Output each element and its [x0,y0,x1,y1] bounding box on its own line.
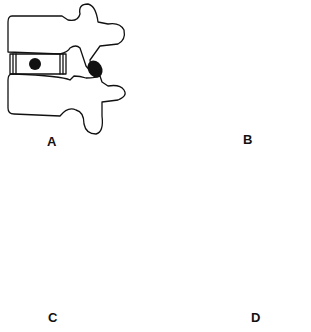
panel-label-c: C [48,310,57,325]
diagram-canvas [0,0,311,332]
panel-label-a: A [47,134,56,149]
nucleus-a [29,58,41,70]
panel-label-d: D [251,310,260,325]
lower-vertebra-a [8,74,125,134]
panel-label-b: B [243,132,252,147]
facet-a [84,58,105,81]
panel-a [8,4,125,134]
